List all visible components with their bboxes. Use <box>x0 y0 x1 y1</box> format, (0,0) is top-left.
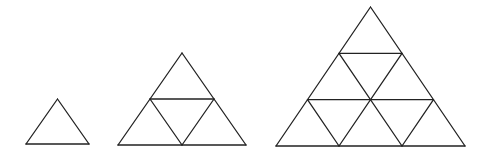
outer-left-edge <box>26 99 58 144</box>
inner-left-parallel-line <box>402 100 434 146</box>
inner-right-parallel-line <box>308 100 340 146</box>
triangle-pattern-diagram <box>0 0 490 155</box>
triangle-size-2 <box>118 53 246 145</box>
inner-right-parallel-line <box>150 99 182 145</box>
triangle-size-3 <box>276 7 465 146</box>
outer-left-edge <box>276 7 371 146</box>
outer-right-edge <box>58 99 90 144</box>
inner-left-parallel-line <box>182 99 214 145</box>
outer-right-edge <box>371 7 466 146</box>
triangle-size-1 <box>26 99 89 144</box>
